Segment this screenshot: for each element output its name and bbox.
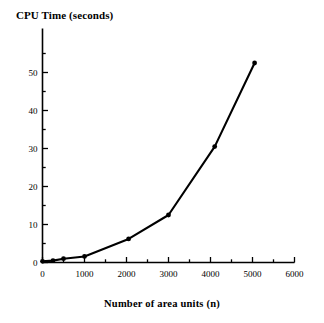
cpu-time-chart: CPU Time (seconds) Number of area units … bbox=[0, 0, 324, 323]
x-tick-label: 1000 bbox=[76, 269, 94, 279]
x-axis-title: Number of area units (n) bbox=[0, 298, 324, 309]
data-point-marker bbox=[51, 258, 56, 263]
x-tick-label: 3000 bbox=[160, 269, 178, 279]
y-tick-label: 50 bbox=[29, 68, 38, 78]
data-point-marker bbox=[126, 237, 131, 242]
y-tick-label: 30 bbox=[29, 144, 38, 154]
series-line bbox=[43, 63, 255, 261]
x-tick-label: 0 bbox=[40, 269, 45, 279]
y-tick-label: 40 bbox=[29, 106, 38, 116]
data-point-marker bbox=[40, 259, 45, 264]
y-tick-label: 10 bbox=[29, 220, 38, 230]
data-point-marker bbox=[61, 256, 66, 261]
data-point-marker bbox=[166, 213, 171, 218]
x-tick-label: 5000 bbox=[244, 269, 262, 279]
y-tick-label: 0 bbox=[33, 258, 38, 268]
data-point-marker bbox=[82, 254, 87, 259]
x-tick-label: 4000 bbox=[202, 269, 220, 279]
y-tick-label: 20 bbox=[29, 182, 38, 192]
data-point-marker bbox=[252, 61, 257, 66]
x-tick-label: 2000 bbox=[118, 269, 136, 279]
data-point-marker bbox=[212, 144, 217, 149]
x-tick-label: 6000 bbox=[286, 269, 304, 279]
